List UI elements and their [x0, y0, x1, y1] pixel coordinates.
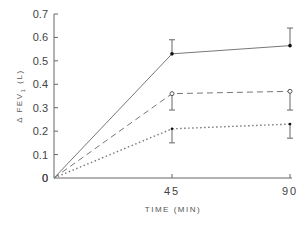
- series: [54, 28, 293, 178]
- y-tick-label: 0.4: [33, 78, 48, 90]
- y-tick-label: 0.1: [33, 149, 48, 161]
- x-tick-label: 45: [164, 185, 180, 197]
- x-axis-title: TIME (MIN): [145, 205, 201, 214]
- axes: [54, 14, 292, 178]
- x-tick-label: 90: [282, 185, 298, 197]
- y-axis-title-main: Δ FEV: [15, 92, 24, 122]
- series-line: [54, 46, 290, 178]
- x-ticks: 04590: [42, 172, 298, 197]
- y-tick-label: 0.7: [33, 8, 48, 20]
- marker: [170, 52, 174, 56]
- marker: [170, 92, 174, 96]
- y-axis-title-sub: 1: [20, 88, 26, 93]
- marker: [171, 128, 174, 131]
- y-tick-label: 0.5: [33, 55, 48, 67]
- marker: [288, 89, 292, 93]
- y-axis-title: Δ FEV1(L): [15, 69, 26, 122]
- y-tick-label: 0.2: [33, 125, 48, 137]
- marker: [289, 123, 292, 126]
- y-axis-title-unit: (L): [15, 69, 24, 83]
- y-tick-label: 0.3: [33, 102, 48, 114]
- series-dotted: [54, 123, 293, 178]
- x-tick-label: 0: [42, 172, 50, 184]
- y-tick-label: 0.6: [33, 31, 48, 43]
- chart: 00.10.20.30.40.50.60.7 04590 TIME (MIN) …: [0, 0, 306, 227]
- series-dashed: [54, 89, 293, 178]
- marker: [288, 44, 292, 48]
- series-solid: [54, 28, 293, 178]
